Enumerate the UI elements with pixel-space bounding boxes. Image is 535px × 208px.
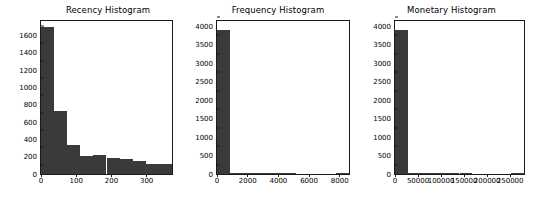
histogram-bar bbox=[408, 173, 421, 174]
y-axis-tick-label: 2000 bbox=[195, 97, 217, 104]
y-axis-tick-label: 1200 bbox=[19, 67, 41, 74]
y-axis-tick-mark bbox=[217, 53, 220, 54]
y-axis-tick-monetary: 2500 bbox=[373, 72, 395, 91]
y-axis-tick-mark bbox=[395, 164, 398, 165]
histogram-bar bbox=[421, 173, 434, 174]
y-axis-tick-frequency: 3000 bbox=[195, 54, 217, 73]
y-axis-tick-label: 800 bbox=[24, 102, 41, 109]
y-axis-tick-mark bbox=[217, 109, 220, 110]
y-axis-tick-mark bbox=[395, 127, 398, 128]
y-axis-tick-label: 3500 bbox=[195, 42, 217, 49]
y-axis-tick-mark bbox=[217, 90, 220, 91]
y-axis-tick-mark bbox=[395, 146, 398, 147]
bar-series-monetary bbox=[395, 21, 524, 174]
y-axis-tick-monetary: 2000 bbox=[373, 91, 395, 110]
histogram-bar bbox=[67, 145, 80, 174]
y-axis-tick-label: 600 bbox=[24, 119, 41, 126]
x-axis-tick-label: 0 bbox=[39, 178, 43, 185]
x-axis-tick-label: 100 bbox=[70, 178, 83, 185]
y-axis-tick-recency: 1400 bbox=[19, 43, 41, 62]
y-axis-tick-recency: 800 bbox=[24, 95, 41, 114]
y-axis-tick-label: 3500 bbox=[373, 42, 395, 49]
histogram-bar bbox=[243, 173, 256, 174]
y-axis-tick-mark bbox=[395, 109, 398, 110]
y-axis-tick-frequency: 1000 bbox=[195, 128, 217, 147]
y-axis-tick-mark bbox=[41, 95, 44, 96]
y-axis-tick-mark bbox=[41, 164, 44, 165]
histogram-bar bbox=[107, 158, 120, 174]
x-axis-tick-label: 300 bbox=[140, 178, 153, 185]
chart-title-monetary: Monetary Histogram bbox=[356, 5, 535, 15]
chart-panel-frequency: Frequency Histogram 05001000150020002500… bbox=[180, 0, 356, 208]
y-axis-tick-recency: 600 bbox=[24, 113, 41, 132]
y-axis-tick-monetary: 500 bbox=[378, 146, 395, 165]
y-axis-tick-frequency: 1500 bbox=[195, 109, 217, 128]
x-axis-tick-label: 4000 bbox=[269, 178, 287, 185]
histogram-bar bbox=[460, 173, 473, 174]
histogram-bar bbox=[41, 27, 54, 174]
histogram-bar bbox=[447, 173, 460, 174]
x-axis-tick-label: 6000 bbox=[300, 178, 318, 185]
y-axis-tick-recency: 1600 bbox=[19, 26, 41, 45]
y-axis-tick-monetary: 3500 bbox=[373, 35, 395, 54]
y-axis-tick-label: 1400 bbox=[19, 50, 41, 57]
histogram-bar bbox=[159, 164, 172, 174]
x-axis-tick-label: 50000 bbox=[407, 178, 429, 185]
histogram-bar bbox=[217, 30, 230, 174]
y-axis-tick-mark bbox=[41, 147, 44, 148]
y-axis-tick-mark bbox=[217, 35, 220, 36]
plot-area-frequency: 0500100015002000250030003500400002000400… bbox=[216, 20, 350, 175]
y-axis-tick-frequency: 500 bbox=[200, 146, 217, 165]
y-axis-tick-label: 2000 bbox=[373, 97, 395, 104]
y-axis-tick-mark bbox=[41, 112, 44, 113]
y-axis-tick-label: 500 bbox=[200, 153, 217, 160]
chart-title-recency: Recency Histogram bbox=[0, 5, 198, 15]
histogram-bar bbox=[93, 155, 106, 174]
y-axis-tick-mark bbox=[395, 17, 398, 18]
y-axis-tick-monetary: 1500 bbox=[373, 109, 395, 128]
y-axis-tick-mark bbox=[217, 72, 220, 73]
y-axis-tick-label: 1600 bbox=[19, 33, 41, 40]
chart-panel-recency: Recency Histogram 0200400600800100012001… bbox=[0, 0, 180, 208]
x-axis-tick-label: 0 bbox=[393, 178, 397, 185]
histogram-bar bbox=[133, 161, 146, 174]
histogram-bar bbox=[80, 156, 93, 174]
y-axis-tick-monetary: 4000 bbox=[373, 17, 395, 36]
y-axis-tick-frequency: 3500 bbox=[195, 35, 217, 54]
y-axis-tick-label: 400 bbox=[24, 136, 41, 143]
y-axis-tick-mark bbox=[41, 129, 44, 130]
y-axis-tick-frequency: 2000 bbox=[195, 91, 217, 110]
plot-area-monetary: 0500100015002000250030003500400005000010… bbox=[394, 20, 525, 175]
y-axis-tick-recency: 400 bbox=[24, 130, 41, 149]
y-axis-tick-recency: 1200 bbox=[19, 61, 41, 80]
histogram-bar bbox=[395, 30, 408, 174]
y-axis-tick-monetary: 3000 bbox=[373, 54, 395, 73]
y-axis-tick-label: 2500 bbox=[195, 79, 217, 86]
y-axis-tick-mark bbox=[41, 78, 44, 79]
y-axis-tick-mark bbox=[217, 146, 220, 147]
x-axis-tick-label: 250000 bbox=[497, 178, 524, 185]
y-axis-tick-label: 500 bbox=[378, 153, 395, 160]
histogram-bar bbox=[336, 173, 349, 174]
y-axis-tick-label: 200 bbox=[24, 154, 41, 161]
y-axis-tick-label: 1500 bbox=[373, 116, 395, 123]
y-axis-tick-frequency: 4000 bbox=[195, 17, 217, 36]
y-axis-tick-label: 4000 bbox=[373, 24, 395, 31]
y-axis-tick-mark bbox=[395, 90, 398, 91]
bar-series-frequency bbox=[217, 21, 349, 174]
y-axis-tick-label: 2500 bbox=[373, 79, 395, 86]
y-axis-tick-mark bbox=[217, 17, 220, 18]
y-axis-tick-mark bbox=[217, 127, 220, 128]
y-axis-tick-label: 1000 bbox=[195, 134, 217, 141]
x-axis-tick-label: 0 bbox=[215, 178, 219, 185]
histogram-figure: Recency Histogram 0200400600800100012001… bbox=[0, 0, 535, 208]
histogram-bar bbox=[257, 173, 270, 174]
y-axis-tick-mark bbox=[41, 60, 44, 61]
y-axis-tick-mark bbox=[217, 164, 220, 165]
chart-title-frequency: Frequency Histogram bbox=[180, 5, 366, 15]
y-axis-tick-recency: 200 bbox=[24, 147, 41, 166]
y-axis-tick-recency: 1000 bbox=[19, 78, 41, 97]
x-axis-tick-label: 2000 bbox=[239, 178, 257, 185]
histogram-bar bbox=[120, 159, 133, 174]
histogram-bar bbox=[511, 173, 524, 174]
